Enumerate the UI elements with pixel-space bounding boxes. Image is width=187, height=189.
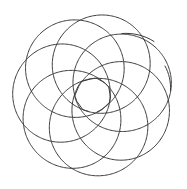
image-canvas: Spirograph Rosette Rosette pattern of se…: [0, 0, 187, 189]
rosette-figure: Spirograph Rosette Rosette pattern of se…: [0, 0, 187, 189]
figure-background: [0, 0, 187, 189]
